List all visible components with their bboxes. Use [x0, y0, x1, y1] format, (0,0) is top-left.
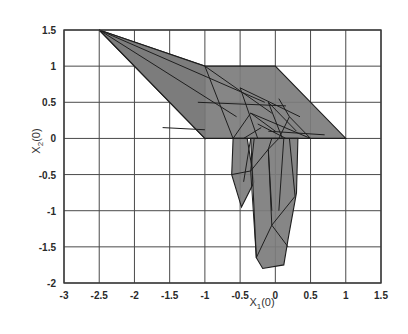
x-tick-label: -1.5 [161, 290, 179, 301]
y-tick-label: -1.5 [39, 242, 57, 253]
x-tick-label: 1.5 [374, 290, 388, 301]
x-tick-label: 1 [343, 290, 349, 301]
x-tick-label: -2.5 [91, 290, 109, 301]
y-tick-label: 0 [50, 133, 56, 144]
x-tick-label: -2 [130, 290, 139, 301]
chart: -3-2.5-2-1.5-1-0.500.511.5 1.510.50-0.5-… [0, 0, 408, 334]
x-tick-label: -0.5 [231, 290, 249, 301]
x-tick-label: -1 [200, 290, 209, 301]
y-tick-label: -2 [47, 278, 56, 289]
x-tick-label: -3 [60, 290, 69, 301]
y-tick-label: 0.5 [42, 97, 56, 108]
y-tick-label: 1 [50, 61, 56, 72]
y-tick-label: 1.5 [42, 25, 56, 36]
y-tick-label: -0.5 [39, 170, 57, 181]
background [0, 0, 408, 334]
y-tick-label: -1 [47, 206, 56, 217]
x-tick-label: 0.5 [304, 290, 318, 301]
